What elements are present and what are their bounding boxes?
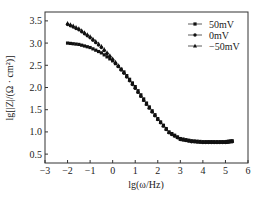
y-tick-label: 2.0 bbox=[30, 82, 43, 93]
legend-marker bbox=[193, 22, 196, 25]
y-tick-label: 3.5 bbox=[30, 15, 43, 26]
data-point bbox=[69, 42, 72, 45]
y-tick-label: 1.0 bbox=[30, 126, 43, 137]
data-point bbox=[74, 42, 77, 45]
data-point bbox=[83, 44, 86, 47]
data-point bbox=[100, 51, 103, 54]
x-tick-label: −3 bbox=[40, 165, 51, 176]
data-point bbox=[94, 49, 97, 52]
data-point bbox=[77, 43, 80, 46]
y-tick-label: 0.5 bbox=[30, 149, 43, 160]
x-tick-label: 4 bbox=[200, 165, 205, 176]
legend-label: 50mV bbox=[209, 19, 235, 30]
data-point bbox=[66, 21, 70, 25]
y-tick-label: 1.5 bbox=[30, 104, 43, 115]
x-tick-label: 3 bbox=[178, 165, 183, 176]
legend-marker bbox=[193, 33, 196, 36]
x-tick-label: −1 bbox=[85, 165, 96, 176]
impedance-chart: −3−2−101234560.51.01.52.02.53.03.550mV0m… bbox=[0, 0, 266, 201]
data-point bbox=[66, 41, 69, 44]
x-tick-label: 1 bbox=[133, 165, 138, 176]
x-tick-label: 6 bbox=[246, 165, 251, 176]
x-tick-label: 2 bbox=[155, 165, 160, 176]
y-tick-label: 2.5 bbox=[30, 60, 43, 71]
data-point bbox=[86, 45, 89, 48]
x-axis-label: lg(ω/Hz) bbox=[128, 179, 163, 191]
x-tick-label: 5 bbox=[223, 165, 228, 176]
legend-label: 0mV bbox=[209, 30, 230, 41]
data-point bbox=[91, 47, 94, 50]
x-tick-label: 0 bbox=[110, 165, 115, 176]
legend-label: −50mV bbox=[209, 41, 240, 52]
data-point bbox=[72, 42, 75, 45]
y-axis-label: lg[|Z|/(Ω · cm²)] bbox=[4, 56, 16, 121]
data-point bbox=[80, 44, 83, 47]
data-point bbox=[89, 46, 92, 49]
data-point bbox=[97, 50, 100, 53]
x-tick-label: −2 bbox=[62, 165, 73, 176]
y-tick-label: 3.0 bbox=[30, 38, 43, 49]
